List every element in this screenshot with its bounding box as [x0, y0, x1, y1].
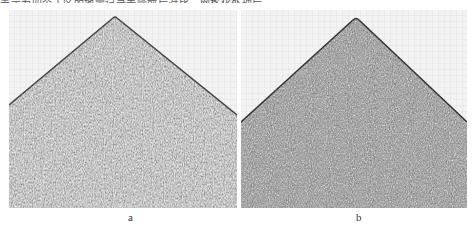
seismic-image-a [9, 10, 237, 208]
panel-label-b: b [356, 211, 362, 223]
seismic-panel-a [9, 10, 237, 208]
seismic-panel-b [241, 10, 467, 208]
panel-label-a: a [128, 211, 133, 223]
truncated-paragraph-text: 表示为四个工区的地震记录去噪前后对比，网格化处理后…… [0, 0, 475, 3]
seismic-image-b [241, 10, 467, 208]
